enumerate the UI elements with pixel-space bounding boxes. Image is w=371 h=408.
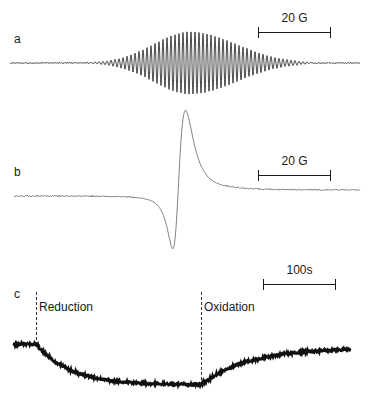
figure-panel-group: a 20 G b 20 G c 100s Reduction Oxidation	[0, 0, 371, 408]
trace-panel-c	[0, 0, 371, 408]
